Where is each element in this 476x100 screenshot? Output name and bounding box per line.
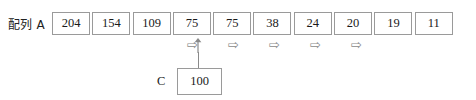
array-cell[interactable]: 38 — [253, 12, 291, 35]
marker-row: ⇨ ⇨ ⇨ ⇨ ⇨ — [52, 37, 466, 55]
right-arrow-icon: ⇨ — [351, 38, 362, 52]
array-cell[interactable]: 11 — [415, 12, 453, 35]
array-cell[interactable]: 75 — [173, 12, 211, 35]
array-cell[interactable]: 20 — [334, 12, 372, 35]
array-cell[interactable]: 75 — [213, 12, 251, 35]
variable-label-c: C — [157, 74, 165, 89]
array-cell[interactable]: 204 — [52, 12, 90, 35]
variable-value-box-c[interactable]: 100 — [177, 68, 222, 95]
right-arrow-icon: ⇨ — [269, 38, 280, 52]
pointer-connector-line — [198, 52, 199, 68]
array-cell[interactable]: 24 — [294, 12, 332, 35]
right-arrow-icon: ⇨ — [310, 38, 321, 52]
array-cell[interactable]: 154 — [92, 12, 130, 35]
array-pointer-diagram: 配列 A 204 154 109 75 75 38 24 20 19 11 ⇨ … — [0, 0, 476, 100]
right-arrow-icon: ⇨ — [228, 38, 239, 52]
array-label: 配列 A — [8, 15, 45, 32]
array-cell-row: 204 154 109 75 75 38 24 20 19 11 — [52, 12, 453, 35]
right-arrow-icon: ⇨ — [187, 38, 198, 52]
array-cell[interactable]: 109 — [133, 12, 171, 35]
array-cell[interactable]: 19 — [374, 12, 412, 35]
